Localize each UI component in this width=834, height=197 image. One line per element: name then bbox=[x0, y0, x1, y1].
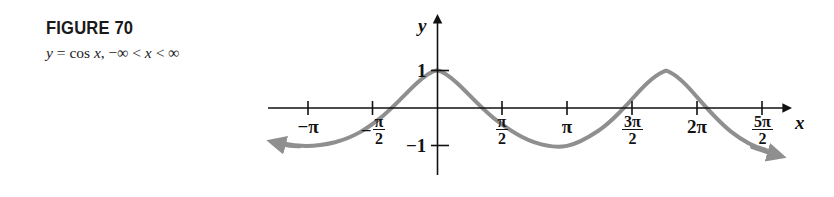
x-tick-label-pi-over-2: π2 bbox=[484, 114, 520, 147]
fraction-denominator: 2 bbox=[622, 130, 643, 147]
fraction-numerator: 3π bbox=[622, 114, 643, 130]
fraction-denominator: 2 bbox=[496, 130, 509, 147]
fraction-denominator: 2 bbox=[373, 130, 386, 147]
fraction: π2 bbox=[373, 114, 386, 147]
fraction: 5π2 bbox=[752, 114, 773, 147]
x-tick-label-5pi-over-2: 5π2 bbox=[742, 114, 783, 147]
x-tick-label-3pi-over-2: 3π2 bbox=[612, 114, 653, 147]
x-tick-label-2pi: 2π bbox=[677, 117, 717, 136]
fraction-sign: − bbox=[361, 121, 372, 140]
x-tick-label-neg-pi: −π bbox=[288, 117, 328, 136]
y-axis-label: y bbox=[418, 15, 426, 37]
fraction-numerator: 5π bbox=[752, 114, 773, 130]
fraction: π2 bbox=[496, 114, 509, 147]
figure-page: FIGURE 70 y = cos x, −∞ < x < ∞ bbox=[0, 0, 834, 197]
fraction-numerator: π bbox=[496, 114, 509, 130]
fraction-denominator: 2 bbox=[752, 130, 773, 147]
y-tick-label-1: 1 bbox=[417, 60, 427, 82]
curve-left-arrow bbox=[281, 144, 300, 146]
x-tick-label-pi: π bbox=[552, 117, 582, 136]
fraction-numerator: π bbox=[373, 114, 386, 130]
x-axis-label: x bbox=[795, 112, 805, 134]
fraction: 3π2 bbox=[622, 114, 643, 147]
y-tick-label-neg1: −1 bbox=[406, 135, 426, 157]
x-tick-label-neg-pi-over-2: −π2 bbox=[350, 114, 396, 147]
cosine-plot bbox=[0, 0, 834, 197]
